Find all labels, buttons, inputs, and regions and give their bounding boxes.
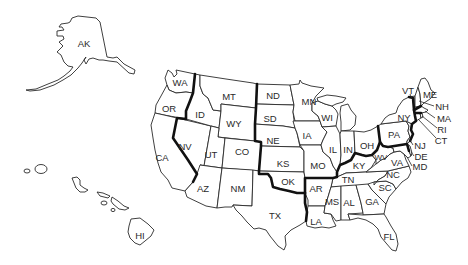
label-nj: NJ [414, 140, 426, 151]
label-sd: SD [263, 113, 276, 124]
label-nh: NH [435, 101, 449, 112]
label-oh: OH [360, 140, 374, 151]
label-al: AL [343, 197, 355, 208]
label-nc: NC [386, 169, 400, 180]
label-mo: MO [310, 160, 325, 171]
label-nd: ND [266, 90, 280, 101]
label-wa: WA [173, 77, 189, 88]
label-hi: HI [135, 230, 145, 241]
label-in: IN [343, 144, 353, 155]
label-tx: TX [269, 210, 282, 221]
label-or: OR [162, 103, 176, 114]
label-la: LA [310, 216, 322, 227]
label-wv: WV [375, 153, 389, 162]
label-mt: MT [222, 91, 236, 102]
label-ma: MA [437, 113, 452, 124]
label-pa: PA [388, 129, 401, 140]
label-co: CO [235, 146, 249, 157]
label-wi: WI [321, 112, 333, 123]
us-map: AK HI WA OR CA NV ID MT WY UT CO AZ NM N… [0, 0, 468, 265]
label-md: MD [413, 161, 428, 172]
label-ut: UT [205, 149, 218, 160]
label-il: IL [329, 144, 337, 155]
label-ia: IA [303, 130, 313, 141]
label-ri: RI [437, 124, 447, 135]
label-ar: AR [309, 183, 322, 194]
label-fl: FL [383, 231, 394, 242]
label-mn: MN [302, 96, 317, 107]
label-ok: OK [281, 176, 295, 187]
label-ks: KS [277, 158, 290, 169]
label-ne: NE [266, 135, 279, 146]
label-ct: CT [435, 135, 448, 146]
label-ca: CA [155, 152, 169, 163]
label-ga: GA [365, 196, 379, 207]
label-vt: VT [402, 85, 414, 96]
label-az: AZ [197, 183, 209, 194]
label-id: ID [195, 109, 205, 120]
label-ny: NY [397, 112, 411, 123]
label-wy: WY [226, 118, 242, 129]
label-nv: NV [178, 141, 192, 152]
label-sc: SC [378, 182, 391, 193]
label-ak: AK [78, 38, 91, 49]
label-nm: NM [231, 183, 246, 194]
label-ms: MS [325, 196, 339, 207]
label-tn: TN [342, 174, 355, 185]
label-va: VA [391, 157, 404, 168]
label-ky: KY [353, 160, 366, 171]
state-ak[interactable] [26, 16, 135, 91]
label-me: ME [423, 89, 437, 100]
